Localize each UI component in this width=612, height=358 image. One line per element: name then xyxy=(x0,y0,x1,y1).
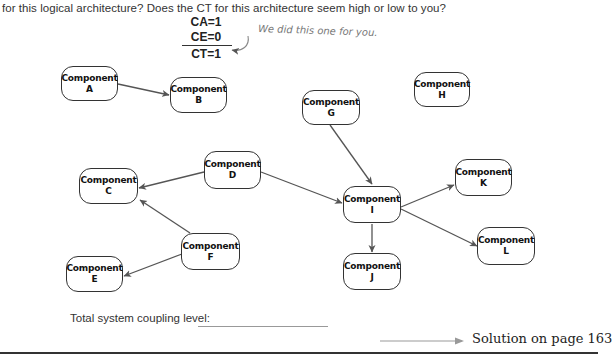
bottom-divider xyxy=(0,352,598,354)
solution-link[interactable]: Solution on page 163 xyxy=(472,331,612,346)
